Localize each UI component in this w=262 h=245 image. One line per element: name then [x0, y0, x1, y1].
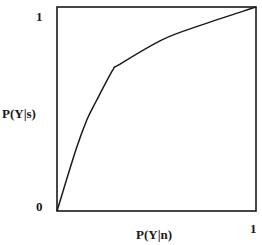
x-axis-label: P(Y|n) [136, 228, 172, 241]
origin-tick-0: 0 [36, 200, 43, 213]
x-tick-1: 1 [250, 222, 257, 235]
curve-line [57, 7, 256, 211]
plot-frame [57, 7, 256, 211]
y-tick-1: 1 [36, 10, 43, 23]
y-axis-label: P(Y|s) [2, 107, 36, 120]
